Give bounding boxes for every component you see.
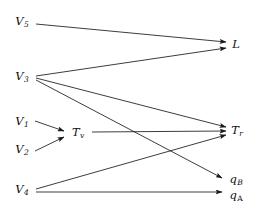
node-base-tr: T [231, 123, 239, 137]
node-subscript-tr: r [239, 130, 243, 139]
node-base-qb: q [229, 172, 236, 186]
node-base-v4: V [15, 182, 23, 196]
edge-v3-to-qb [36, 80, 222, 178]
node-label-v5: V5 [15, 16, 28, 28]
node-label-v4: V4 [15, 184, 28, 196]
node-base-qa: q [229, 188, 236, 202]
diagram-canvas: V5V3V1V2V4TvLTrqBqA [0, 0, 257, 211]
node-base-v3: V [15, 69, 23, 83]
node-subscript-tv: v [80, 132, 84, 141]
node-base-v5: V [15, 14, 23, 28]
edges-group [35, 24, 226, 192]
node-label-v1: V1 [15, 116, 28, 128]
node-subscript-v1: 1 [24, 121, 29, 130]
node-subscript-v3: 3 [24, 76, 29, 85]
node-label-tv: Tv [72, 127, 84, 139]
edge-tv-to-tr [92, 131, 226, 132]
node-label-qa: qA [229, 190, 242, 202]
node-subscript-v2: 2 [24, 149, 29, 158]
node-base-v1: V [15, 114, 23, 128]
edge-v3-to-l [36, 48, 226, 76]
node-label-l: L [232, 39, 240, 51]
node-base-tv: T [72, 125, 80, 139]
edge-v3-to-tr [36, 78, 226, 127]
node-label-v3: V3 [15, 71, 28, 83]
node-label-qb: qB [229, 174, 242, 186]
edge-v1-to-tv [35, 121, 64, 131]
node-base-v2: V [15, 142, 23, 156]
edge-v5-to-l [36, 24, 226, 42]
node-label-v2: V2 [15, 144, 28, 156]
node-subscript-v4: 4 [24, 189, 29, 198]
node-subscript-qb: B [237, 179, 243, 188]
node-subscript-qa: A [237, 195, 243, 204]
edge-layer [0, 0, 257, 211]
node-base-l: L [232, 37, 240, 51]
node-subscript-v5: 5 [24, 21, 29, 30]
node-label-tr: Tr [231, 125, 243, 137]
edge-v2-to-tv [35, 137, 64, 151]
edge-v4-to-tr [36, 135, 226, 189]
